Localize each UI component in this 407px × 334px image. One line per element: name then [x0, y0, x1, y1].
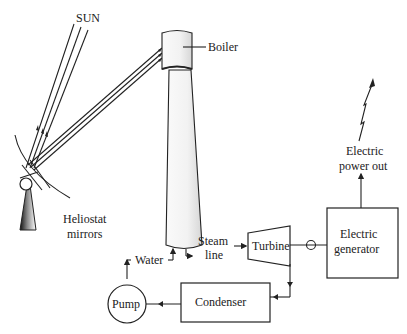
water-pipe: Water: [127, 249, 173, 279]
heliostat-pivot-icon: [20, 178, 32, 190]
boiler-label: Boiler: [208, 40, 238, 54]
tower: [166, 70, 202, 249]
generator-label-2: generator: [334, 242, 379, 256]
boiler: Boiler: [162, 31, 238, 70]
turbine-label: Turbine: [252, 239, 290, 253]
condenser-label: Condenser: [195, 295, 246, 309]
power-out: Electric power out: [339, 78, 388, 208]
turbine: Turbine: [248, 226, 290, 266]
return-pipe: [270, 264, 293, 300]
power-label-1: Electric: [346, 144, 383, 158]
solar-tower-diagram: SUN Heliostat mirrors Boiler: [0, 0, 407, 334]
electric-generator: Electric generator: [327, 208, 398, 278]
heliostat-label-1: Heliostat: [63, 212, 107, 226]
steam-label-1: Steam: [198, 234, 229, 248]
heliostat-label-2: mirrors: [67, 227, 103, 241]
heliostat-mirrors: Heliostat mirrors: [15, 135, 107, 241]
generator-label-1: Electric: [340, 227, 377, 241]
steam-label-2: line: [205, 248, 223, 262]
power-label-2: power out: [339, 159, 388, 173]
condenser-to-pump: [146, 301, 181, 307]
sun-label: SUN: [76, 11, 100, 25]
reflected-rays: [28, 48, 162, 170]
lightning-icon: [359, 82, 373, 141]
water-label: Water: [135, 253, 163, 267]
pump: Pump: [108, 285, 146, 323]
pump-label: Pump: [112, 297, 140, 311]
shaft: [290, 241, 327, 250]
condenser: Condenser: [181, 283, 270, 322]
